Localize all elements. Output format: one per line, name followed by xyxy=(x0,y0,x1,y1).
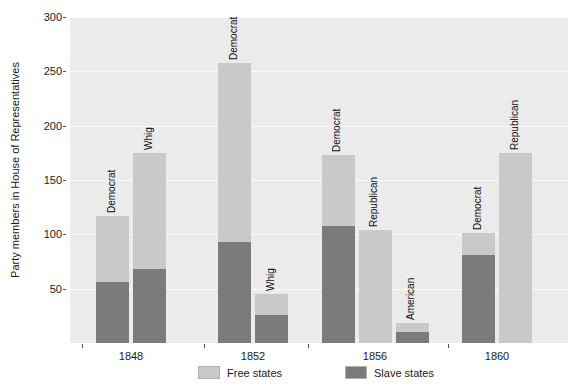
bar-label: Republican xyxy=(368,177,379,227)
y-axis-tick-label: 150 xyxy=(44,174,62,186)
bar-segment-free-states xyxy=(255,294,288,315)
y-axis-tick-labels: 50100150200250300 xyxy=(26,0,66,360)
bar-1856-american: American xyxy=(396,323,429,343)
legend-label: Slave states xyxy=(374,367,434,379)
x-axis-tick-label-1848: 1848 xyxy=(119,350,143,362)
bar-1852-democrat: Democrat xyxy=(218,63,251,343)
bar-label: Republican xyxy=(509,100,520,150)
bar-1856-democrat: Democrat xyxy=(322,155,355,343)
y-axis-tick-mark xyxy=(63,126,66,127)
bar-segment-slave-states xyxy=(462,255,495,343)
bar-segment-slave-states xyxy=(218,242,251,343)
y-axis-tick-label: 250 xyxy=(44,65,62,77)
bar-segment-free-states xyxy=(133,153,166,269)
bar-label: American xyxy=(405,278,416,320)
legend-item-free-states[interactable]: Free states xyxy=(198,366,282,379)
bar-segment-slave-states xyxy=(255,315,288,343)
bar-segment-slave-states xyxy=(96,282,129,343)
x-axis-tick-label-1852: 1852 xyxy=(241,350,265,362)
bar-label: Whig xyxy=(265,268,276,291)
bar-segment-slave-states xyxy=(396,332,429,343)
bar-chart-figure: Party members in House of Representative… xyxy=(0,0,579,389)
x-axis-tick-label-1856: 1856 xyxy=(363,350,387,362)
bar-segment-free-states xyxy=(462,233,495,255)
gridline xyxy=(70,17,568,18)
bar-label: Democrat xyxy=(331,109,342,152)
plot-panel: DemocratWhigDemocratWhigDemocratRepublic… xyxy=(70,17,568,343)
bar-1848-democrat: Democrat xyxy=(96,216,129,343)
x-axis-tick-label-1860: 1860 xyxy=(485,350,509,362)
y-axis-tick-mark xyxy=(63,289,66,290)
y-axis-tick-mark xyxy=(63,17,66,18)
y-axis-title-text: Party members in House of Representative… xyxy=(9,62,21,278)
gridline xyxy=(70,71,568,72)
y-axis-title: Party members in House of Representative… xyxy=(6,0,24,340)
y-axis-tick-label: 200 xyxy=(44,120,62,132)
bar-1852-whig: Whig xyxy=(255,294,288,343)
bar-label: Democrat xyxy=(228,16,239,59)
y-axis-tick-mark xyxy=(63,180,66,181)
y-axis-tick-label: 300 xyxy=(44,11,62,23)
x-axis-tick-mark xyxy=(204,344,205,348)
x-axis-tick-mark xyxy=(82,344,83,348)
legend-swatch xyxy=(345,366,367,379)
bar-segment-free-states xyxy=(359,230,392,343)
y-axis-tick-mark xyxy=(63,71,66,72)
bar-1860-democrat: Democrat xyxy=(462,233,495,343)
chart-legend: Free statesSlave states xyxy=(0,364,579,386)
legend-item-slave-states[interactable]: Slave states xyxy=(345,366,434,379)
bar-label: Democrat xyxy=(472,187,483,230)
bar-label: Democrat xyxy=(106,170,117,213)
y-axis-tick-mark xyxy=(63,234,66,235)
x-axis-tick-mark xyxy=(448,344,449,348)
bar-segment-slave-states xyxy=(133,269,166,343)
bar-segment-free-states xyxy=(322,155,355,226)
y-axis-tick-label: 50 xyxy=(50,283,62,295)
bar-label: Whig xyxy=(143,127,154,150)
bar-segment-free-states xyxy=(499,153,532,343)
x-axis-tick-mark xyxy=(308,344,309,348)
y-axis-tick-label: 100 xyxy=(44,228,62,240)
legend-label: Free states xyxy=(227,367,282,379)
bar-1856-republican: Republican xyxy=(359,230,392,343)
bar-segment-free-states xyxy=(218,63,251,242)
bar-segment-slave-states xyxy=(322,226,355,343)
bar-segment-free-states xyxy=(396,323,429,332)
bar-1860-republican: Republican xyxy=(499,153,532,343)
bar-segment-free-states xyxy=(96,216,129,282)
bar-1848-whig: Whig xyxy=(133,153,166,343)
x-axis-line xyxy=(70,343,568,344)
legend-swatch xyxy=(198,366,220,379)
